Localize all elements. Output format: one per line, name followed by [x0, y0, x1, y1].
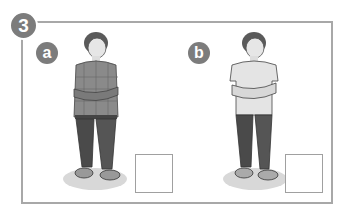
boy-checked-shirt-illustration	[62, 29, 128, 191]
exercise-number-badge: 3	[9, 11, 38, 40]
boy-tshirt-illustration	[220, 29, 286, 191]
item-a-label-badge: a	[36, 42, 58, 64]
item-b-answer-box[interactable]	[285, 154, 323, 193]
item-a-answer-box[interactable]	[135, 154, 173, 193]
item-b-label-badge: b	[188, 42, 210, 64]
